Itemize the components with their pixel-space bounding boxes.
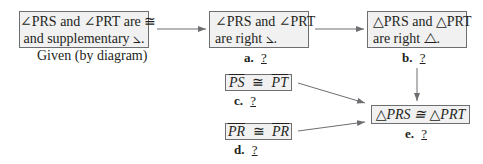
box-b-line2: are right ⧍. — [373, 30, 466, 47]
reason-e-letter: e. — [405, 126, 414, 141]
arrow-c-to-e — [298, 83, 365, 103]
segment-pt: PT — [272, 75, 288, 90]
box-b-line1: △PRS and △PRT — [373, 13, 466, 30]
reason-c-blank[interactable]: ? — [246, 93, 260, 109]
congruent-symbol: ≅ — [253, 124, 265, 139]
reason-b-blank[interactable]: ? — [416, 50, 430, 66]
reason-d: d. ? — [234, 142, 262, 158]
box-a-line1: ∠PRS and ∠PRT — [215, 13, 308, 30]
given-reason: Given (by diagram) — [37, 48, 147, 64]
box-c: PS ≅ PT — [225, 74, 292, 91]
box-b: △PRS and △PRT are right ⧍. — [367, 11, 467, 48]
segment-pr-right: PR — [272, 124, 289, 139]
reason-d-letter: d. — [234, 142, 244, 157]
box-d: PR ≅ PR — [225, 123, 292, 140]
reason-e-blank[interactable]: ? — [417, 126, 431, 142]
reason-a: a. ? — [244, 50, 271, 66]
reason-a-blank[interactable]: ? — [257, 50, 271, 66]
box-a: ∠PRS and ∠PRT are right ⦣. — [209, 11, 309, 48]
arrow-d-to-e — [298, 122, 365, 131]
reason-c: c. ? — [234, 93, 260, 109]
box-a-line2: are right ⦣. — [215, 30, 308, 47]
reason-d-blank[interactable]: ? — [248, 142, 262, 158]
segment-ps: PS — [229, 75, 245, 90]
reason-b-letter: b. — [402, 50, 412, 65]
segment-pr-left: PR — [228, 124, 245, 139]
reason-c-letter: c. — [234, 93, 243, 108]
reason-b: b. ? — [402, 50, 430, 66]
reason-a-letter: a. — [244, 50, 254, 65]
given-line1: ∠PRS and ∠PRT are ≅ — [20, 13, 148, 30]
box-e: △PRS ≅ △PRT — [371, 105, 470, 124]
box-e-statement: △PRS ≅ △PRT — [376, 107, 466, 122]
given-box: ∠PRS and ∠PRT are ≅ and supplementary ⦣. — [19, 11, 149, 48]
given-line2: and supplementary ⦣. — [20, 30, 148, 47]
congruent-symbol: ≅ — [252, 75, 264, 90]
reason-e: e. ? — [405, 126, 431, 142]
